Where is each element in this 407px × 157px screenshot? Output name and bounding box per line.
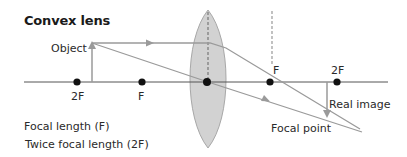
lens-center-dot	[203, 78, 211, 86]
left-f-label: F	[138, 91, 144, 102]
right-f-dot	[266, 78, 273, 85]
right-2f-label: 2F	[331, 65, 344, 76]
left-f-dot	[138, 78, 145, 85]
left-2f-dot	[73, 78, 80, 85]
diagram-title: Convex lens	[24, 13, 110, 28]
object-arrowhead	[88, 41, 96, 49]
right-f-label: F	[273, 65, 279, 76]
center-ray-arrowhead	[261, 95, 270, 102]
real-image-arrowhead	[323, 110, 331, 118]
center-ray	[92, 43, 362, 132]
focal-point-label: Focal point	[271, 123, 331, 134]
object-label: Object	[51, 43, 87, 54]
right-2f-dot	[333, 78, 340, 85]
legend-twice-focal-length: Twice focal length (2F)	[25, 139, 149, 150]
left-2f-label: 2F	[71, 91, 84, 102]
real-image-label: Real image	[329, 99, 390, 110]
legend-focal-length: Focal length (F)	[24, 121, 109, 132]
parallel-ray-arrowhead	[146, 40, 154, 47]
